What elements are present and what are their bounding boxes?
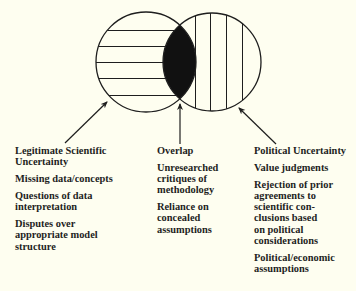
political-uncertainty-column: Political Uncertainty Value judgments Re… xyxy=(254,145,356,280)
scientific-uncertainty-column: Legitimate Scientific Uncertainty Missin… xyxy=(15,145,145,257)
list-item: Missing data/concepts xyxy=(15,173,145,184)
overlap-column: Overlap Unresearched critiques of method… xyxy=(157,145,247,241)
political-uncertainty-heading: Political Uncertainty xyxy=(254,145,356,156)
list-item: Political/economic assumptions xyxy=(254,252,356,275)
list-item: Value judgments xyxy=(254,162,356,173)
list-item: Reliance on concealed assumptions xyxy=(157,201,247,235)
overlap-heading: Overlap xyxy=(157,145,247,156)
right-arrow-icon xyxy=(239,108,276,144)
left-arrow-icon xyxy=(65,102,107,143)
list-item: Rejection of prior agreements to scienti… xyxy=(254,179,356,247)
list-item: Questions of data interpretation xyxy=(15,190,145,213)
list-item: Disputes over appropriate model structur… xyxy=(15,218,145,252)
right-circle-hatch xyxy=(196,5,243,120)
list-item: Unresearched critiques of methodology xyxy=(157,162,247,196)
scientific-uncertainty-heading: Legitimate Scientific Uncertainty xyxy=(15,145,145,168)
